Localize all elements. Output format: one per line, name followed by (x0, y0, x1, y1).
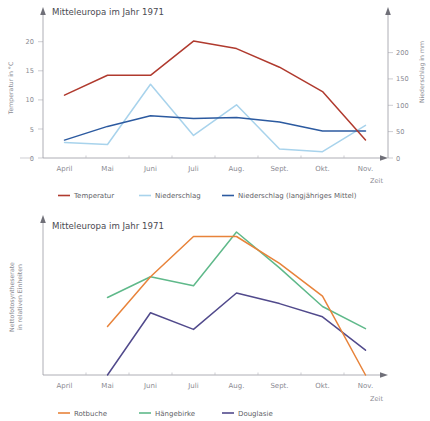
photosynthesis-month-nov: Nov. (358, 382, 373, 390)
photosynthesis-month-sept: Sept. (270, 382, 288, 390)
climate-chart-title: Mitteleuropa im Jahr 1971 (52, 7, 164, 17)
climate-month-juli: Juli (187, 165, 198, 173)
photosynthesis-month-juni: Juni (143, 382, 157, 390)
climate-y2-tick-100: 100 (396, 102, 409, 110)
climate-y-tick-10: 10 (26, 96, 34, 104)
climate-y-tick-15: 15 (26, 67, 34, 75)
climate-y-tick-20: 20 (26, 38, 34, 46)
photosynthesis-chart-title: Mitteleuropa im Jahr 1971 (52, 221, 164, 231)
photosynthesis-y-axis-title-line1: Nettofotosyntheserate (8, 262, 16, 332)
climate-left-axis-arrow (40, 7, 46, 15)
climate-month-aug: Aug. (229, 165, 245, 173)
photosynthesis-series-rotbuche (108, 237, 366, 376)
photosynthesis-y-axis-arrow (40, 215, 46, 223)
climate-month-okt: Okt. (315, 165, 330, 173)
photosynthesis-month-aug: Aug. (229, 382, 245, 390)
climate-y2-axis-title: Niederschlag in mm (418, 41, 426, 103)
photosynthesis-month-labels: April Mai Juni Juli Aug. Sept. Okt. Nov. (57, 382, 374, 390)
photosynthesis-legend: Rotbuche Hängebirke Douglasie (58, 410, 273, 418)
climate-legend-label-niederschlag-mittel: Niederschlag (langjähriges Mittel) (238, 192, 357, 200)
climate-y2-tick-0: 0 (396, 155, 400, 163)
climate-chart-panel: Temperatur in °C Niederschlag in mm 0 5 … (0, 0, 430, 205)
climate-month-april: April (57, 165, 73, 173)
photosynthesis-month-april: April (57, 382, 73, 390)
figure-container: Temperatur in °C Niederschlag in mm 0 5 … (0, 0, 430, 421)
photosynthesis-legend-label-rotbuche: Rotbuche (74, 410, 107, 418)
photosynthesis-chart-svg: Nettofotosyntheserate in relativen Einhe… (0, 205, 430, 421)
climate-y-axis-title: Temperatur in °C (7, 62, 15, 116)
photosynthesis-y-axis-title-line2: in relativen Einheiten (16, 264, 23, 330)
climate-series-temperatur (65, 41, 366, 140)
climate-y2-ticks: 0 50 100 150 200 (388, 49, 409, 162)
climate-y2-tick-150: 150 (396, 75, 409, 83)
climate-legend-label-temperatur: Temperatur (73, 192, 114, 200)
climate-y2-tick-50: 50 (396, 128, 404, 136)
climate-month-sept: Sept. (270, 165, 288, 173)
photosynthesis-x-axis-label: Zeit (370, 395, 383, 403)
photosynthesis-month-juli: Juli (187, 382, 198, 390)
photosynthesis-month-mai: Mai (101, 382, 113, 390)
climate-month-labels: April Mai Juni Juli Aug. Sept. Okt. Nov. (57, 165, 374, 173)
climate-y-tick-0: 0 (30, 155, 34, 163)
climate-legend: Temperatur Niederschlag Niederschlag (la… (58, 192, 357, 200)
climate-y-tick-5: 5 (30, 126, 34, 134)
photosynthesis-legend-label-haengebirke: Hängebirke (155, 410, 195, 418)
photosynthesis-x-axis-arrow (380, 372, 388, 378)
climate-y-ticks: 0 5 10 15 20 (20, 38, 43, 162)
climate-month-mai: Mai (101, 165, 113, 173)
climate-right-axis-arrow (385, 7, 391, 15)
photosynthesis-series-haengebirke (108, 232, 366, 329)
climate-x-axis-label: Zeit (370, 177, 383, 185)
climate-chart-svg: Temperatur in °C Niederschlag in mm 0 5 … (0, 0, 430, 205)
climate-x-axis-arrow (380, 155, 388, 161)
climate-legend-label-niederschlag: Niederschlag (155, 192, 201, 200)
climate-month-nov: Nov. (358, 165, 373, 173)
photosynthesis-legend-label-douglasie: Douglasie (238, 410, 273, 418)
climate-month-juni: Juni (143, 165, 157, 173)
photosynthesis-chart-panel: Nettofotosyntheserate in relativen Einhe… (0, 205, 430, 421)
photosynthesis-month-okt: Okt. (315, 382, 330, 390)
climate-y2-tick-200: 200 (396, 49, 409, 57)
